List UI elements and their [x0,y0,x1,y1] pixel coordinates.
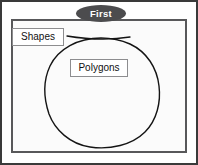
polygons-label-box: Polygons [70,59,128,77]
shapes-label-box: Shapes [12,28,64,46]
first-banner-ellipse: First [76,5,126,22]
first-banner-label: First [90,9,112,19]
shapes-label-text: Shapes [21,32,55,42]
polygons-label-text: Polygons [78,63,119,73]
venn-style-diagram-figure: First Shapes Polygons [0,0,198,165]
